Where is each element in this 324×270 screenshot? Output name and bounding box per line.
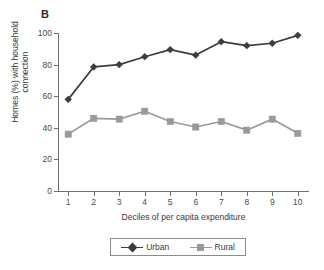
data-point-rural-5: [167, 118, 173, 124]
x-tick-label-8: 8: [237, 198, 257, 207]
data-point-rural-6: [193, 124, 199, 130]
data-point-rural-8: [244, 127, 250, 133]
y-tick-label-0: 0: [28, 187, 52, 196]
x-tick-7: [221, 192, 222, 196]
data-point-urban-8: [243, 42, 250, 49]
data-point-rural-7: [218, 118, 224, 124]
legend-swatch-rural-icon: [190, 243, 212, 252]
data-point-urban-7: [218, 38, 225, 45]
legend-marker-square-icon: [197, 244, 204, 251]
series-plot: [58, 33, 308, 191]
legend-label-urban: Urban: [146, 242, 169, 252]
x-tick-9: [272, 192, 273, 196]
data-point-urban-6: [192, 52, 199, 59]
series-rural: [65, 108, 301, 137]
chart-figure: B 020406080100 12345678910 Homes (%) wit…: [0, 0, 324, 270]
x-axis-title: Deciles of per capita expenditure: [58, 212, 309, 222]
x-tick-label-1: 1: [58, 198, 78, 207]
data-point-urban-10: [294, 32, 301, 39]
y-tick-label-20: 20: [28, 155, 52, 164]
data-point-urban-9: [269, 40, 276, 47]
data-point-urban-4: [141, 53, 148, 60]
y-axis-title: Homes (%) with household connection: [10, 14, 30, 130]
y-axis-title-line2: connection: [20, 51, 30, 92]
x-tick-label-4: 4: [135, 198, 155, 207]
x-tick-label-9: 9: [262, 198, 282, 207]
legend-entry-urban[interactable]: Urban: [121, 242, 169, 252]
x-tick-10: [298, 192, 299, 196]
y-tick-label-40: 40: [28, 124, 52, 133]
series-line-rural: [68, 111, 298, 134]
y-tick-0: [54, 191, 58, 192]
x-tick-1: [68, 192, 69, 196]
y-tick-label-80: 80: [28, 61, 52, 70]
data-point-rural-1: [65, 131, 71, 137]
x-tick-5: [170, 192, 171, 196]
x-tick-8: [247, 192, 248, 196]
panel-label: B: [41, 8, 49, 20]
legend-label-rural: Rural: [215, 242, 235, 252]
data-point-urban-3: [116, 61, 123, 68]
x-tick-label-5: 5: [160, 198, 180, 207]
data-point-rural-2: [91, 115, 97, 121]
plot-area: [58, 33, 308, 191]
data-point-rural-10: [295, 130, 301, 136]
y-tick-label-100: 100: [28, 29, 52, 38]
x-tick-6: [196, 192, 197, 196]
y-axis-title-line1: Homes (%) with household: [10, 21, 20, 123]
x-tick-label-3: 3: [109, 198, 129, 207]
x-tick-4: [145, 192, 146, 196]
legend-entry-rural[interactable]: Rural: [190, 242, 235, 252]
chart-legend: UrbanRural: [110, 238, 246, 256]
data-point-rural-3: [116, 116, 122, 122]
x-tick-label-2: 2: [84, 198, 104, 207]
x-tick-label-7: 7: [211, 198, 231, 207]
y-tick-label-60: 60: [28, 92, 52, 101]
legend-marker-diamond-icon: [127, 243, 137, 253]
x-tick-3: [119, 192, 120, 196]
series-line-urban: [68, 35, 298, 99]
data-point-urban-5: [167, 46, 174, 53]
x-tick-label-10: 10: [288, 198, 308, 207]
legend-swatch-urban-icon: [121, 243, 143, 252]
x-tick-2: [94, 192, 95, 196]
series-urban: [65, 32, 301, 103]
data-point-rural-4: [142, 108, 148, 114]
x-tick-label-6: 6: [186, 198, 206, 207]
data-point-rural-9: [269, 116, 275, 122]
